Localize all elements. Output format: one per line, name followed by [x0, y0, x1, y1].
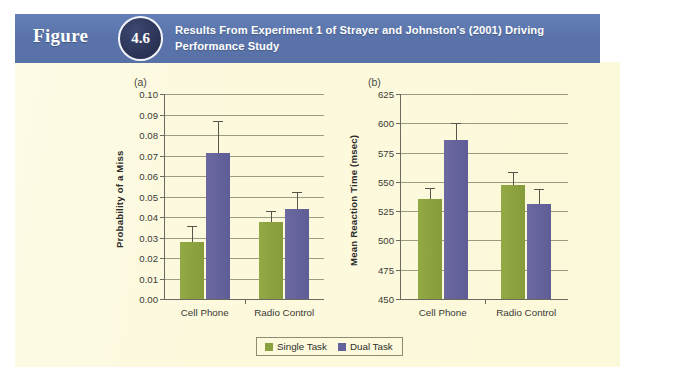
- y-axis-tick: [396, 240, 401, 241]
- error-bar: [451, 123, 461, 139]
- error-bar-stem: [297, 192, 298, 208]
- bar-dual-task: [206, 153, 230, 299]
- x-axis-category-label: Radio Control: [496, 307, 556, 318]
- y-axis-tick-label: 500: [378, 235, 394, 246]
- legend-swatch-icon: [265, 343, 273, 351]
- error-bar-stem: [539, 189, 540, 204]
- y-axis-tick-label: 600: [378, 118, 394, 129]
- y-axis-tick-label: 0.09: [139, 109, 158, 120]
- y-axis-tick-label: 0.03: [139, 232, 158, 243]
- error-bar: [187, 226, 197, 241]
- y-axis-tick-label: 525: [378, 206, 394, 217]
- gridline: [165, 176, 324, 177]
- x-axis-category-label: Radio Control: [254, 307, 314, 318]
- figure-page: Figure 4.6 Results From Experiment 1 of …: [0, 0, 679, 389]
- gridline: [401, 123, 568, 124]
- bar-single-task: [180, 242, 204, 299]
- y-axis-tick: [160, 217, 165, 218]
- x-axis-category-label: Cell Phone: [419, 307, 467, 318]
- error-bar-stem: [513, 172, 514, 185]
- figure-word-label: Figure: [33, 25, 88, 47]
- y-axis-tick: [160, 299, 165, 300]
- plot-area-a: 0.000.010.020.030.040.050.060.070.080.09…: [164, 94, 324, 300]
- x-axis-tick: [485, 299, 486, 304]
- y-axis-tick-label: 0.04: [139, 212, 158, 223]
- error-bar-stem: [456, 123, 457, 139]
- panel-label-a: (a): [134, 76, 147, 88]
- y-axis-tick-label: 575: [378, 147, 394, 158]
- error-bar-stem: [271, 211, 272, 222]
- error-bar: [508, 172, 518, 185]
- y-axis-tick-label: 0.00: [139, 294, 158, 305]
- y-axis-tick: [160, 279, 165, 280]
- gridline: [165, 115, 324, 116]
- legend-label: Single Task: [277, 341, 327, 352]
- error-bar: [292, 192, 302, 208]
- error-bar-stem: [192, 226, 193, 241]
- plot-area-b: 450475500525550575600625Cell PhoneRadio …: [400, 94, 568, 300]
- y-axis-tick: [160, 238, 165, 239]
- y-axis-tick-label: 625: [378, 89, 394, 100]
- error-bar: [534, 189, 544, 204]
- y-axis-tick-label: 450: [378, 294, 394, 305]
- y-axis-tick-label: 550: [378, 176, 394, 187]
- error-bar-stem: [218, 121, 219, 154]
- error-bar: [213, 121, 223, 154]
- legend-swatch-icon: [338, 343, 346, 351]
- y-axis-label-a: Probability of a Miss: [114, 104, 125, 294]
- error-bar: [425, 188, 435, 200]
- y-axis-tick-label: 475: [378, 264, 394, 275]
- y-axis-tick: [160, 135, 165, 136]
- panel-label-b: (b): [368, 76, 381, 88]
- y-axis-tick: [396, 211, 401, 212]
- legend-label: Dual Task: [350, 341, 393, 352]
- y-axis-tick-label: 0.01: [139, 273, 158, 284]
- gridline: [401, 182, 568, 183]
- bar-dual-task: [285, 209, 309, 299]
- gridline: [165, 94, 324, 95]
- gridline: [165, 135, 324, 136]
- gridline: [401, 153, 568, 154]
- legend-entry: Single Task: [265, 341, 327, 352]
- y-axis-tick: [160, 258, 165, 259]
- legend-entry: Dual Task: [338, 341, 393, 352]
- y-axis-tick-label: 0.08: [139, 130, 158, 141]
- x-axis-category-label: Cell Phone: [181, 307, 229, 318]
- y-axis-tick: [160, 115, 165, 116]
- y-axis-tick: [396, 299, 401, 300]
- y-axis-tick: [396, 123, 401, 124]
- y-axis-tick: [396, 94, 401, 95]
- bar-dual-task: [444, 140, 468, 299]
- gridline: [401, 94, 568, 95]
- y-axis-tick: [160, 176, 165, 177]
- y-axis-tick: [396, 270, 401, 271]
- y-axis-tick: [396, 153, 401, 154]
- y-axis-tick: [160, 156, 165, 157]
- bar-single-task: [501, 185, 525, 299]
- bar-single-task: [418, 199, 442, 299]
- x-axis-tick: [245, 299, 246, 304]
- y-axis-tick: [160, 197, 165, 198]
- y-axis-tick-label: 0.10: [139, 89, 158, 100]
- error-bar-stem: [430, 188, 431, 200]
- figure-title: Results From Experiment 1 of Strayer and…: [175, 23, 585, 54]
- y-axis-tick: [396, 182, 401, 183]
- figure-number-text: 4.6: [131, 30, 150, 47]
- bar-single-task: [259, 222, 283, 299]
- figure-number-badge: 4.6: [118, 16, 163, 61]
- bar-dual-task: [527, 204, 551, 299]
- y-axis-tick-label: 0.06: [139, 171, 158, 182]
- figure-header-banner: Figure 4.6 Results From Experiment 1 of …: [15, 14, 600, 63]
- y-axis-tick-label: 0.02: [139, 253, 158, 264]
- y-axis-tick: [160, 94, 165, 95]
- y-axis-tick-label: 0.05: [139, 191, 158, 202]
- y-axis-label-b: Mean Reaction Time (msec): [348, 100, 359, 300]
- y-axis-tick-label: 0.07: [139, 150, 158, 161]
- error-bar: [266, 211, 276, 222]
- gridline: [165, 156, 324, 157]
- chart-legend: Single TaskDual Task: [256, 337, 403, 356]
